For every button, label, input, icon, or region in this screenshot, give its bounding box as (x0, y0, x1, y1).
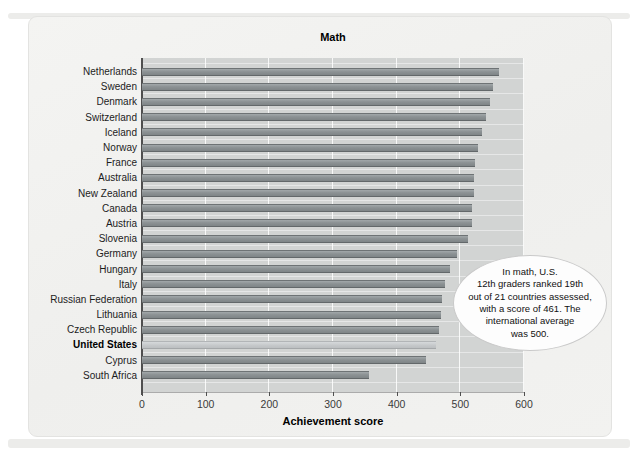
x-tick-mark (333, 392, 334, 396)
x-tick-label: 200 (261, 398, 279, 410)
bar-track (142, 159, 524, 167)
bar-cyprus (142, 356, 426, 364)
chart-row: Norway (29, 140, 524, 155)
bar-switzerland (142, 113, 486, 121)
x-tick-mark (206, 392, 207, 396)
bar-france (142, 159, 475, 167)
figure: Math Netherlands Sweden Denmark Switzerl… (0, 0, 637, 458)
x-tick-mark (460, 392, 461, 396)
bar-track (142, 371, 524, 379)
row-label: Canada (29, 203, 142, 214)
x-axis-ticks: 0100200300400500600 (142, 398, 524, 411)
chart-row: South Africa (29, 368, 524, 383)
chart-row: Switzerland (29, 110, 524, 125)
row-label: Norway (29, 142, 142, 153)
bar-czech-republic (142, 326, 439, 334)
annotation-line: international average (454, 315, 606, 327)
bar-track (142, 98, 524, 106)
row-label: Netherlands (29, 66, 142, 77)
chart-row: Germany (29, 246, 524, 261)
x-tick-mark (397, 392, 398, 396)
x-tick-label: 600 (515, 398, 533, 410)
chart-row: Czech Republic (29, 322, 524, 337)
chart-row: Austria (29, 216, 524, 231)
rows: Netherlands Sweden Denmark Switzerland I… (29, 64, 524, 383)
chart-row: Denmark (29, 94, 524, 109)
bar-sweden (142, 83, 493, 91)
bar-south-africa (142, 371, 369, 379)
bar-track (142, 113, 524, 121)
row-label: Slovenia (29, 233, 142, 244)
bar-australia (142, 174, 474, 182)
bar-canada (142, 204, 472, 212)
row-label: Switzerland (29, 112, 142, 123)
row-label: Austria (29, 218, 142, 229)
annotation-line: 12th graders ranked 19th (454, 278, 606, 290)
row-label: South Africa (29, 370, 142, 381)
bottom-rule-divider (8, 439, 630, 448)
row-label: Hungary (29, 264, 142, 275)
annotation-line: In math, U.S. (454, 266, 606, 278)
chart-row: Sweden (29, 79, 524, 94)
bar-norway (142, 144, 478, 152)
chart-row: Italy (29, 277, 524, 292)
x-tick-mark (269, 392, 270, 396)
bar-track (142, 250, 524, 258)
row-label: Russian Federation (29, 294, 142, 305)
row-label: Italy (29, 279, 142, 290)
bar-austria (142, 219, 472, 227)
annotation-line: with a score of 461. The (454, 303, 606, 315)
bar-track (142, 341, 524, 349)
bar-iceland (142, 128, 482, 136)
x-tick-label: 300 (324, 398, 342, 410)
row-label: Iceland (29, 127, 142, 138)
annotation-bubble: In math, U.S.12th graders ranked 19thout… (453, 255, 607, 351)
bar-track (142, 144, 524, 152)
bar-germany (142, 250, 457, 258)
x-tick-label: 400 (388, 398, 406, 410)
bar-netherlands (142, 68, 499, 76)
x-tick-mark (142, 392, 143, 396)
bar-russian-federation (142, 295, 442, 303)
row-label: Sweden (29, 81, 142, 92)
row-label: Czech Republic (29, 324, 142, 335)
row-label: Germany (29, 248, 142, 259)
bar-hungary (142, 265, 450, 273)
bar-italy (142, 280, 445, 288)
bar-track (142, 83, 524, 91)
row-label: Cyprus (29, 355, 142, 366)
x-tick-label: 100 (197, 398, 215, 410)
chart-row: Canada (29, 201, 524, 216)
bar-lithuania (142, 311, 441, 319)
chart-row: Australia (29, 170, 524, 185)
x-tick-label: 500 (452, 398, 470, 410)
chart-row: Hungary (29, 261, 524, 276)
annotation-line: was 500. (454, 328, 606, 340)
annotation-line: out of 21 countries assessed, (454, 291, 606, 303)
x-tick-mark (524, 392, 525, 396)
bar-track (142, 204, 524, 212)
chart-row: Cyprus (29, 353, 524, 368)
bar-track (142, 68, 524, 76)
bar-track (142, 128, 524, 136)
bar-new-zealand (142, 189, 474, 197)
chart-row: New Zealand (29, 186, 524, 201)
row-label: Denmark (29, 96, 142, 107)
bar-track (142, 235, 524, 243)
row-label: Australia (29, 172, 142, 183)
bar-track (142, 356, 524, 364)
bar-track (142, 174, 524, 182)
bar-denmark (142, 98, 490, 106)
tick-marks (142, 392, 524, 396)
chart-row: Netherlands (29, 64, 524, 79)
x-tick-label: 0 (139, 398, 145, 410)
chart-row: Lithuania (29, 307, 524, 322)
bar-track (142, 189, 524, 197)
chart-panel: Math Netherlands Sweden Denmark Switzerl… (28, 16, 612, 437)
chart-row: Iceland (29, 125, 524, 140)
row-label: Lithuania (29, 309, 142, 320)
chart-title: Math (142, 31, 524, 43)
chart-row: Russian Federation (29, 292, 524, 307)
row-label: United States (29, 339, 142, 350)
chart-row: United States (29, 337, 524, 352)
